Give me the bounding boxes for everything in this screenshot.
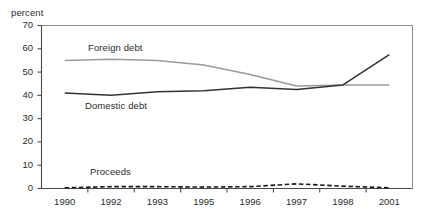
y-tick-label-50: 50 <box>11 66 33 77</box>
x-tick-label-1993: 1993 <box>134 196 180 207</box>
series-label-foreign-debt: Foreign debt <box>88 42 143 53</box>
x-tick-label-2001: 2001 <box>366 196 412 207</box>
y-tick-label-10: 10 <box>11 159 33 170</box>
y-tick-label-20: 20 <box>11 135 33 146</box>
y-tick-label-60: 60 <box>11 42 33 53</box>
series-label-domestic-debt: Domestic debt <box>85 100 147 111</box>
x-tick-label-1998: 1998 <box>320 196 366 207</box>
series-label-proceeds: Proceeds <box>90 166 131 177</box>
y-tick-label-40: 40 <box>11 89 33 100</box>
y-tick-label-70: 70 <box>11 19 33 30</box>
y-axis-ticks <box>38 26 42 189</box>
chart-container: percent 706050403020100 1990199219931995… <box>0 0 444 224</box>
chart-plot-area <box>0 0 444 224</box>
x-axis-ticks <box>88 189 366 193</box>
x-tick-label-1992: 1992 <box>88 196 134 207</box>
x-tick-label-1990: 1990 <box>42 196 88 207</box>
series-line-foreign-debt <box>65 59 390 86</box>
x-tick-label-1996: 1996 <box>227 196 273 207</box>
y-tick-label-30: 30 <box>11 112 33 123</box>
y-tick-label-0: 0 <box>11 182 33 193</box>
x-tick-label-1995: 1995 <box>181 196 227 207</box>
series-line-proceeds <box>65 184 390 188</box>
series-line-domestic-debt <box>65 55 390 96</box>
x-tick-label-1997: 1997 <box>274 196 320 207</box>
